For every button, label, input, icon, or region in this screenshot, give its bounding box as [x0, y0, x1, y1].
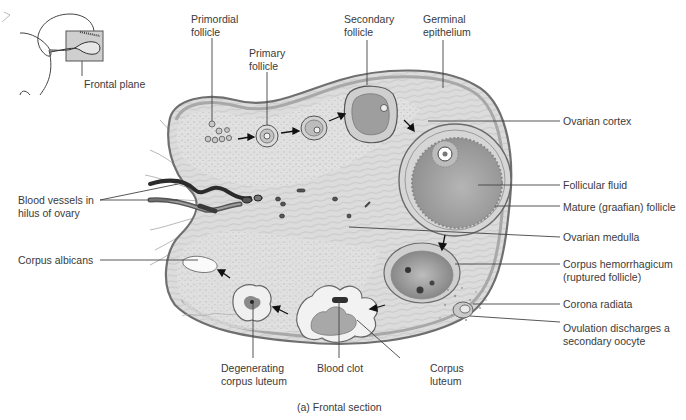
mature-follicle	[399, 124, 511, 236]
ovulation-line1: Ovulation discharges a	[563, 322, 670, 335]
secondary-follicle-line1: Secondary	[344, 13, 394, 26]
corpus-hemorrhagicum	[384, 243, 460, 303]
blood-vessels-line1: Blood vessels in	[18, 194, 94, 207]
degenerating-corpus-luteum-line2: corpus luteum	[221, 375, 287, 388]
degenerating-corpus-luteum	[233, 285, 271, 321]
corpus-luteum-line2: luteum	[430, 375, 464, 388]
germinal-epithelium-line2: epithelium	[423, 26, 471, 39]
corona-radiata-label: Corona radiata	[563, 298, 632, 311]
primary-follicle-label: Primary follicle	[249, 47, 285, 72]
primordial-follicle-label: Primordial follicle	[191, 13, 238, 38]
corpus-luteum-line1: Corpus	[430, 362, 464, 375]
corona-radiata	[453, 302, 473, 318]
corpus-luteum-label: Corpus luteum	[430, 362, 464, 387]
corpus-hemorrhagicum-label: Corpus hemorrhagicum (ruptured follicle)	[563, 258, 673, 283]
primary-follicle-line2: follicle	[249, 60, 285, 73]
corpus-hemorrhagicum-line2: (ruptured follicle)	[563, 271, 673, 284]
primordial-follicle-line1: Primordial	[191, 13, 238, 26]
degenerating-corpus-luteum-line1: Degenerating	[221, 362, 287, 375]
growing-follicle	[301, 116, 327, 140]
germinal-epithelium-label: Germinal epithelium	[423, 13, 471, 38]
frontal-plane-label: Frontal plane	[84, 78, 145, 91]
ovulation-label: Ovulation discharges a secondary oocyte	[563, 322, 670, 347]
blood-vessels-label: Blood vessels in hilus of ovary	[18, 194, 94, 219]
ovarian-cortex-label: Ovarian cortex	[563, 115, 631, 128]
blood-vessels-line2: hilus of ovary	[18, 207, 94, 220]
secondary-follicle	[344, 86, 397, 143]
primary-follicle-line1: Primary	[249, 47, 285, 60]
secondary-follicle-line2: follicle	[344, 26, 394, 39]
degenerating-corpus-luteum-label: Degenerating corpus luteum	[221, 362, 287, 387]
corpus-hemorrhagicum-line1: Corpus hemorrhagicum	[563, 258, 673, 271]
corpus-albicans-label: Corpus albicans	[18, 254, 93, 267]
blood-clot-shape	[332, 297, 348, 303]
primary-follicle	[256, 125, 278, 147]
mature-follicle-label: Mature (graafian) follicle	[563, 201, 676, 214]
blood-clot-label: Blood clot	[317, 362, 363, 375]
germinal-epithelium-line1: Germinal	[423, 13, 471, 26]
ovulation-line2: secondary oocyte	[563, 335, 670, 348]
secondary-follicle-label: Secondary follicle	[344, 13, 394, 38]
follicular-fluid-label: Follicular fluid	[563, 179, 627, 192]
primordial-follicle-line2: follicle	[191, 26, 238, 39]
ovarian-medulla-label: Ovarian medulla	[563, 231, 639, 244]
figure-caption: (a) Frontal section	[297, 401, 382, 413]
